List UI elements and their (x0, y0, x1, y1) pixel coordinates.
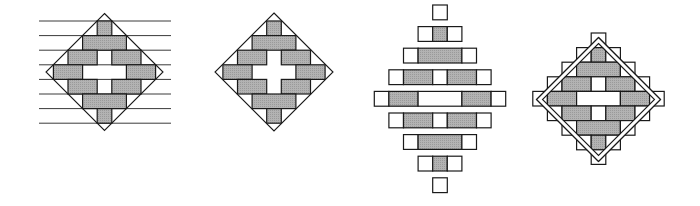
gray-brick (83, 36, 127, 51)
white-brick (418, 91, 462, 106)
white-brick (389, 113, 404, 128)
white-brick (389, 70, 404, 85)
gray-brick (404, 70, 433, 85)
white-brick (477, 113, 492, 128)
white-brick (447, 156, 462, 171)
gray-brick (252, 36, 296, 51)
gray-brick (83, 94, 127, 109)
white-brick (433, 113, 448, 128)
white-brick (462, 135, 477, 150)
gray-brick (281, 79, 310, 94)
gray-brick (591, 135, 606, 150)
gray-brick (562, 77, 591, 92)
gray-brick (418, 48, 462, 63)
gray-brick (606, 106, 635, 121)
figure-1-diamond-with-guides (39, 14, 171, 131)
gray-brick (547, 91, 576, 106)
white-brick (433, 70, 448, 85)
gray-brick (404, 113, 433, 128)
gray-brick (97, 109, 112, 124)
gray-brick (418, 135, 462, 150)
gray-brick (68, 50, 97, 65)
gray-brick (389, 91, 418, 106)
white-brick (404, 135, 419, 150)
gray-brick (606, 77, 635, 92)
gray-brick (577, 62, 621, 77)
gray-brick (126, 65, 155, 80)
gray-brick (97, 21, 112, 36)
gray-brick (462, 91, 491, 106)
figure-4-stepped-diamond (533, 33, 664, 164)
gray-brick (238, 79, 267, 94)
gray-brick (562, 106, 591, 121)
white-brick (462, 48, 477, 63)
gray-brick (447, 113, 476, 128)
gray-brick (296, 65, 325, 80)
gray-brick (68, 79, 97, 94)
white-brick (591, 106, 606, 121)
white-brick (433, 5, 448, 20)
gray-brick (281, 50, 310, 65)
gray-brick (112, 50, 141, 65)
white-brick (577, 91, 621, 106)
gray-brick (252, 94, 296, 109)
gray-brick (577, 121, 621, 136)
white-brick (491, 91, 506, 106)
gray-brick (447, 70, 476, 85)
gray-brick (223, 65, 252, 80)
white-brick (404, 48, 419, 63)
gray-brick (53, 65, 82, 80)
white-brick (374, 91, 389, 106)
figure-2-diamond-bricks (215, 13, 333, 131)
diagram-canvas (0, 0, 700, 206)
white-brick (477, 70, 492, 85)
white-brick (418, 27, 433, 42)
figure-3-exploded-rows (374, 5, 505, 193)
gray-brick (433, 27, 448, 42)
white-brick (418, 156, 433, 171)
gray-brick (267, 109, 282, 124)
gray-brick (591, 48, 606, 63)
gray-brick (238, 50, 267, 65)
white-brick (433, 178, 448, 193)
white-brick (447, 27, 462, 42)
gray-brick (112, 79, 141, 94)
white-brick (591, 77, 606, 92)
gray-brick (433, 156, 448, 171)
gray-brick (267, 21, 282, 36)
gray-brick (620, 91, 649, 106)
